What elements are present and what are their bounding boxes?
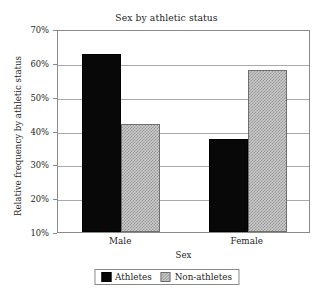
chart-title: Sex by athletic status [0, 12, 333, 23]
y-axis-tick-label: 10% [30, 228, 49, 238]
legend-entry: Non-athletes [161, 272, 232, 282]
y-axis-tick-label: 30% [30, 160, 49, 170]
chart-legend: AthletesNon-athletes [94, 269, 239, 285]
x-axis-tick-label: Male [109, 236, 131, 246]
legend-label: Athletes [115, 272, 152, 282]
y-axis-tick-labels: 70%60%50%40%30%20%10% [0, 30, 53, 233]
x-axis-tick-label: Female [231, 236, 263, 246]
bar-female-athletes [209, 139, 248, 232]
x-axis-label: Sex [57, 250, 310, 260]
legend-entry: Athletes [101, 272, 152, 282]
y-axis-tick-label: 60% [30, 59, 49, 69]
y-axis-tick-label: 50% [30, 93, 49, 103]
gray-hatched-swatch [161, 272, 171, 282]
plot-area [57, 30, 310, 233]
y-axis-tick-label: 40% [30, 127, 49, 137]
bar-female-non-athletes [248, 70, 287, 232]
y-axis-tick-label: 20% [30, 194, 49, 204]
y-axis-tick-mark [53, 233, 57, 234]
bar-male-athletes [82, 54, 121, 232]
black-solid-swatch [101, 272, 111, 282]
y-axis-tick-label: 70% [30, 25, 49, 35]
bar-male-non-athletes [121, 124, 160, 232]
bar-chart: Sex by athletic status Relative frequenc… [0, 0, 333, 298]
legend-label: Non-athletes [175, 272, 232, 282]
